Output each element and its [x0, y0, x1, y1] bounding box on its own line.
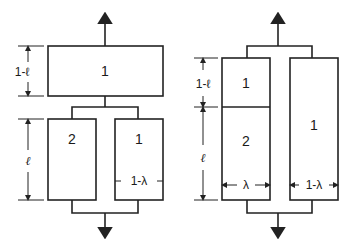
left-configuration: [18, 18, 163, 233]
left-bottom-left-box-label: 2: [68, 131, 76, 147]
right-right-box-label: 1: [310, 117, 318, 133]
left-merge-connector: [72, 200, 138, 213]
left-width-label: 1-λ: [131, 174, 148, 188]
flow-configuration-diagram: 1 2 1 1-ℓ ℓ 1-λ 1 2 1 1-ℓ: [0, 0, 351, 250]
right-labels: 1 2 1 1-ℓ ℓ λ 1-λ: [196, 75, 323, 192]
left-top-box-label: 1: [101, 63, 109, 79]
right-top-connector: [247, 46, 312, 58]
left-dim-bottom-label: ℓ: [26, 154, 31, 168]
right-lower-left-box-label: 2: [242, 133, 250, 149]
right-left-width-label: λ: [243, 178, 249, 192]
right-right-width-label: 1-λ: [306, 178, 323, 192]
left-split-connector: [72, 107, 138, 119]
left-labels: 1 2 1 1-ℓ ℓ 1-λ: [15, 63, 148, 188]
right-upper-left-box-label: 1: [242, 75, 250, 91]
right-merge-connector: [247, 200, 312, 213]
right-dim-top-label: 1-ℓ: [196, 77, 211, 91]
right-dim-bottom-label: ℓ: [201, 151, 206, 165]
left-dim-top-label: 1-ℓ: [15, 65, 30, 79]
left-bottom-right-box-label: 1: [135, 131, 143, 147]
